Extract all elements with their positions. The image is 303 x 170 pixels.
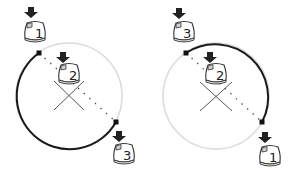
click-3-left: 3 <box>112 131 134 164</box>
click-number: 3 <box>123 148 131 163</box>
click-number: 1 <box>35 26 43 41</box>
down-arrow-icon <box>24 7 38 18</box>
end-point-marker <box>114 120 119 125</box>
chord-dotted-right <box>186 53 262 122</box>
click-number: 3 <box>183 26 191 41</box>
click-1-left: 1 <box>24 7 45 42</box>
down-arrow-icon <box>258 132 272 143</box>
down-arrow-icon <box>56 52 70 63</box>
click-number: 2 <box>216 68 224 83</box>
down-arrow-icon <box>172 8 186 19</box>
start-point-marker <box>184 51 189 56</box>
click-2-right: 2 <box>203 52 226 84</box>
center-x-icon <box>54 81 84 110</box>
right-panel: 3 2 1 <box>163 8 280 166</box>
click-number: 1 <box>269 150 277 165</box>
down-arrow-icon <box>203 52 217 63</box>
click-1-right: 1 <box>258 132 280 166</box>
arc-diagram: 1 2 3 3 <box>0 0 303 170</box>
click-2-left: 2 <box>56 52 79 84</box>
click-3-right: 3 <box>172 8 194 42</box>
click-number: 2 <box>69 68 77 83</box>
arc-drawn-right <box>186 44 268 122</box>
end-point-marker <box>260 120 265 125</box>
down-arrow-icon <box>112 131 126 142</box>
start-point-marker <box>37 51 42 56</box>
center-x-icon <box>200 82 232 111</box>
left-panel: 1 2 3 <box>16 7 134 164</box>
